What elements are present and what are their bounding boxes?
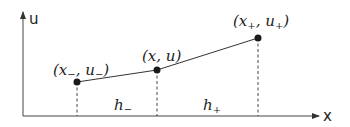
y-axis-label: u — [29, 10, 39, 28]
label-center-point: (x, u) — [142, 47, 182, 65]
label-h-plus: h+ — [203, 96, 221, 115]
x-axis-label: x — [323, 107, 332, 125]
diagram-svg: u x (x−, u−) (x, u) (x+, u+) h− h+ — [0, 0, 350, 127]
label-h-minus: h− — [114, 96, 132, 115]
label-left-point: (x−, u−) — [53, 61, 109, 80]
piecewise-linear-diagram: u x (x−, u−) (x, u) (x+, u+) h− h+ — [0, 0, 350, 127]
point-right — [255, 35, 262, 42]
point-center — [154, 67, 161, 74]
label-right-point: (x+, u+) — [233, 12, 289, 31]
